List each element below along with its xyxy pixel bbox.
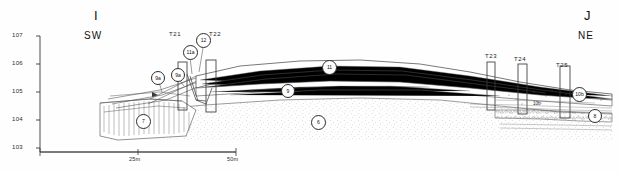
trench-label-t23: T23	[485, 53, 497, 59]
context-marker-9a-left: 9a	[151, 71, 165, 85]
section-endpoint-direction-left: SW	[84, 30, 102, 41]
context-marker-10b: 10b	[572, 87, 587, 102]
context-label-8: 8	[594, 114, 597, 119]
context-marker-11: 11	[322, 60, 337, 75]
context-label-6: 6	[317, 120, 320, 125]
annotation-10b: 10b	[533, 101, 541, 106]
trench-label-t21: T21	[169, 31, 181, 37]
axis-tick-103: 103	[12, 144, 23, 150]
context-label-12: 12	[201, 38, 207, 43]
context-marker-12: 12	[196, 33, 211, 48]
section-endpoint-direction-right: NE	[578, 30, 594, 41]
context-label-9: 9	[287, 89, 290, 94]
context-label-10b: 10b	[575, 92, 583, 97]
context-marker-11a: 11a	[183, 45, 198, 60]
trench-label-t22: T22	[209, 31, 221, 37]
section-endpoint-letter-left: I	[94, 8, 98, 23]
section-drawing-figure: 107 106 105 104 103 I SW J NE T21 T22 T2…	[0, 0, 620, 173]
scale-tick-25m: 25m	[129, 156, 140, 162]
context-marker-9a-right: 9a	[171, 68, 185, 82]
context-marker-7: 7	[136, 114, 151, 129]
section-endpoint-letter-right: J	[584, 8, 591, 23]
context-label-9a-right: 9a	[175, 73, 181, 78]
scale-bar-artwork	[40, 148, 236, 156]
context-label-9a-left: 9a	[155, 76, 161, 81]
trench-label-t24: T24	[514, 56, 526, 62]
axis-tick-107: 107	[12, 32, 23, 38]
context-marker-9: 9	[281, 84, 295, 98]
axis-tick-106: 106	[12, 60, 23, 66]
context-label-7: 7	[142, 119, 145, 124]
axis-tick-105: 105	[12, 88, 23, 94]
context-label-11a: 11a	[187, 50, 195, 55]
context-label-11: 11	[327, 65, 332, 70]
section-vector-artwork	[0, 0, 620, 173]
scale-tick-50m: 50m	[227, 156, 238, 162]
axis-tick-104: 104	[12, 116, 23, 122]
context-marker-6: 6	[311, 115, 326, 130]
trench-label-t25: T25	[556, 62, 568, 68]
context-marker-8: 8	[588, 109, 602, 123]
